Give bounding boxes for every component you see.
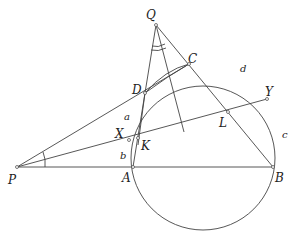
arc-label-a: a (124, 111, 130, 122)
angle-mark-Q-2 (151, 48, 166, 51)
label-L: L (218, 116, 227, 130)
label-X: X (114, 127, 124, 141)
line-PC (17, 64, 189, 167)
label-Q: Q (146, 8, 156, 22)
line-QB (156, 25, 273, 167)
point-P (16, 166, 19, 169)
label-D: D (131, 83, 142, 97)
point-L (227, 111, 230, 114)
angle-mark-Q-1 (152, 44, 165, 47)
label-A: A (121, 171, 131, 185)
arc-label-b: b (120, 150, 126, 161)
label-B: B (274, 171, 284, 185)
label-P: P (7, 173, 17, 187)
label-C: C (188, 52, 197, 66)
label-K: K (140, 139, 151, 153)
label-Y: Y (265, 85, 274, 99)
arc-label-d: d (240, 63, 246, 74)
point-B (272, 166, 275, 169)
point-D (144, 92, 147, 95)
point-K (137, 137, 140, 140)
point-A (132, 166, 135, 169)
circumcircle (131, 86, 275, 230)
point-X (128, 139, 131, 142)
arc-label-c: c (282, 129, 288, 140)
point-Q (155, 24, 158, 27)
geometry-diagram: P A B Q C D X K Y L a b c d (0, 0, 300, 238)
